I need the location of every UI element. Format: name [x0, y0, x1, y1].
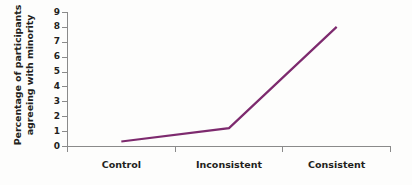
- y-axis-tick-label: 7: [20, 37, 60, 46]
- y-axis-line: [67, 12, 68, 147]
- y-axis-tick-label: 0: [20, 142, 60, 151]
- x-axis-tick: [175, 147, 176, 152]
- y-axis-tick-label: 2: [20, 112, 60, 121]
- data-series-line: [121, 27, 336, 142]
- x-axis-category-label: Control: [68, 159, 176, 170]
- x-axis-tick: [282, 147, 283, 152]
- y-axis-tick-label: 6: [20, 52, 60, 61]
- y-axis-tick: [62, 42, 67, 43]
- y-axis-tick-label: 3: [20, 97, 60, 106]
- y-axis-tick-label: 5: [20, 67, 60, 76]
- x-axis-tick: [390, 147, 391, 152]
- y-axis-tick: [62, 12, 67, 13]
- x-axis-line: [67, 146, 391, 147]
- y-axis-tick: [62, 27, 67, 28]
- y-axis-tick: [62, 116, 67, 117]
- x-axis-tick: [67, 147, 68, 152]
- y-axis-tick: [62, 86, 67, 87]
- y-axis-tick-label: 8: [20, 22, 60, 31]
- y-axis-tick: [62, 131, 67, 132]
- y-axis-tick-label: 1: [20, 127, 60, 136]
- y-axis-tick-label: 9: [20, 8, 60, 17]
- y-axis-tick: [62, 101, 67, 102]
- y-axis-tick: [62, 72, 67, 73]
- x-axis-category-label: Consistent: [283, 159, 391, 170]
- y-axis-tick-label: 4: [20, 82, 60, 91]
- x-axis-category-label: Inconsistent: [175, 159, 283, 170]
- line-chart-figure: Percentage of participants agreeing with…: [0, 0, 412, 185]
- y-axis-tick: [62, 57, 67, 58]
